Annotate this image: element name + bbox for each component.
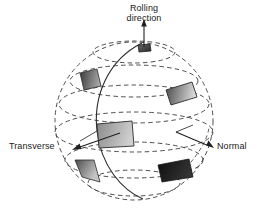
- sphere-diagram: [0, 0, 263, 210]
- label-rolling-line2: direction: [113, 13, 175, 23]
- label-normal: Normal: [217, 141, 247, 151]
- label-rolling-line1: Rolling: [113, 3, 175, 13]
- orientation-sphere-figure: Rolling direction Transverse Normal: [0, 0, 263, 210]
- label-transverse: Transverse: [9, 141, 55, 151]
- patch-upper-left: [80, 69, 101, 90]
- crystallite-patches: [75, 44, 197, 182]
- patch-upper-right: [166, 82, 197, 105]
- label-rolling-direction: Rolling direction: [113, 3, 175, 23]
- patch-lower-left: [75, 160, 100, 182]
